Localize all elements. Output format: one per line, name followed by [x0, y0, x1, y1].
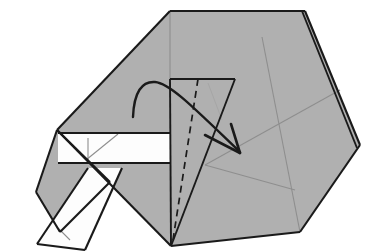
origami-diagram-canvas: [0, 0, 379, 251]
origami-figure: [0, 0, 379, 251]
edge-inner-flap-left: [170, 79, 171, 246]
